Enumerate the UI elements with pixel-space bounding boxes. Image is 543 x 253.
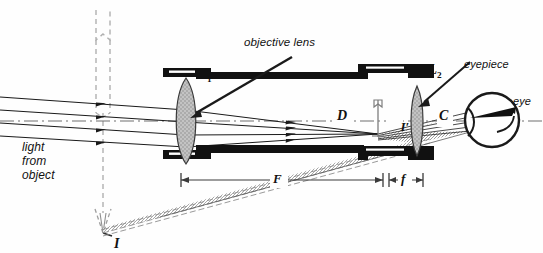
- final-image-arrow-outline: [95, 121, 112, 236]
- intermediate-image-prime: ′: [406, 119, 410, 134]
- eyepiece-label: eyepiece: [464, 58, 509, 70]
- light-from-object-line-2: from: [22, 155, 46, 168]
- light-from-object-line-1: light: [22, 141, 45, 154]
- lens-l1-letter: L: [198, 66, 207, 81]
- distance-c-label: C: [439, 108, 448, 124]
- distance-d-label: D: [337, 108, 347, 124]
- incoming-ray-arrowheads: [96, 103, 106, 146]
- focal-length-eyepiece-label: f: [401, 172, 405, 187]
- telescope-ray-diagram: objective lens eyepiece eye light from o…: [0, 0, 543, 253]
- intermediate-image-arrow: [372, 100, 384, 137]
- intermediate-image-label: I′: [387, 105, 409, 149]
- lens-l2-label: L2: [414, 46, 442, 95]
- objective-lens-label: objective lens: [244, 36, 315, 49]
- eye-diagram: [465, 93, 519, 147]
- final-image-label: I: [114, 236, 120, 252]
- focal-length-objective-label: F: [273, 172, 282, 187]
- lens-l2-subscript: 2: [437, 69, 442, 79]
- lens-l1-label: L1: [184, 50, 212, 99]
- eye-label: eye: [513, 95, 531, 107]
- lens-l1-subscript: 1: [207, 73, 212, 83]
- lens-l2-letter: L: [428, 62, 437, 77]
- light-from-object-line-3: object: [22, 169, 55, 182]
